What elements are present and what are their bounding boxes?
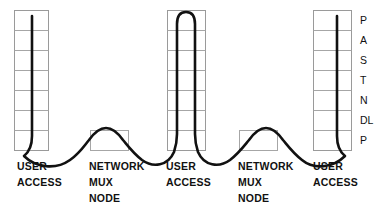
- caption-line: MUX: [89, 176, 113, 188]
- node-caption-user-access-right: USER ACCESS: [313, 160, 358, 188]
- layer-label-1: P: [360, 14, 367, 26]
- node-caption-network-mux-node-right: NETWORK MUX NODE: [238, 160, 294, 204]
- caption-line: ACCESS: [166, 176, 211, 188]
- diagram-canvas: P A S T N DL P USER ACCESS NETWORK MUX N…: [0, 0, 390, 220]
- layer-label-2: A: [360, 34, 367, 46]
- caption-line: NETWORK: [238, 160, 294, 172]
- caption-line: USER: [17, 160, 47, 172]
- layer-label-5: N: [360, 94, 368, 106]
- node-caption-network-mux-node-left: NETWORK MUX NODE: [89, 160, 145, 204]
- caption-line: MUX: [238, 176, 262, 188]
- layer-legend: P A S T N DL P: [360, 14, 374, 146]
- caption-line: USER: [313, 160, 343, 172]
- caption-line: NODE: [89, 192, 120, 204]
- stack-frame-right: [314, 11, 352, 151]
- caption-line: ACCESS: [313, 176, 358, 188]
- node-caption-user-access-center: USER ACCESS: [166, 160, 211, 188]
- caption-line: ACCESS: [17, 176, 62, 188]
- protocol-stack-diagram: P A S T N DL P USER ACCESS NETWORK MUX N…: [0, 0, 390, 220]
- stack-network-mux-node-right: [240, 131, 278, 151]
- layer-label-6: DL: [360, 114, 374, 126]
- layer-label-3: S: [360, 54, 367, 66]
- stack-user-access-right: [314, 11, 352, 151]
- mux-box-right: [240, 131, 278, 151]
- node-caption-user-access-left: USER ACCESS: [17, 160, 62, 188]
- layer-label-4: T: [360, 74, 367, 86]
- stack-frame-center: [168, 11, 206, 151]
- stack-user-access-center: [168, 11, 206, 151]
- signal-flow-path: [24, 12, 345, 166]
- layer-label-7: P: [360, 134, 367, 146]
- caption-line: NODE: [238, 192, 269, 204]
- caption-line: USER: [166, 160, 196, 172]
- caption-line: NETWORK: [89, 160, 145, 172]
